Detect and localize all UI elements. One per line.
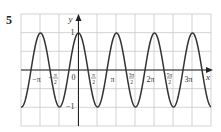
svg-text:−1: −1: [66, 102, 75, 111]
svg-text:2: 2: [54, 79, 57, 85]
svg-text:5π: 5π: [167, 72, 173, 78]
cosine-graph: −π−π20π2π3π22π5π23π1−1yx: [0, 0, 221, 132]
svg-text:π: π: [110, 75, 114, 84]
svg-text:x: x: [205, 72, 210, 82]
svg-text:2: 2: [130, 79, 133, 85]
svg-text:3π: 3π: [129, 72, 135, 78]
svg-text:π: π: [54, 72, 57, 78]
svg-text:−: −: [48, 73, 53, 82]
svg-text:2π: 2π: [146, 75, 154, 84]
svg-text:1: 1: [71, 28, 75, 37]
svg-text:y: y: [68, 14, 73, 24]
svg-text:2: 2: [92, 79, 95, 85]
svg-text:−π: −π: [32, 75, 41, 84]
svg-text:π: π: [92, 72, 95, 78]
svg-text:3π: 3π: [184, 75, 192, 84]
svg-text:0: 0: [72, 73, 76, 82]
svg-text:2: 2: [168, 79, 171, 85]
